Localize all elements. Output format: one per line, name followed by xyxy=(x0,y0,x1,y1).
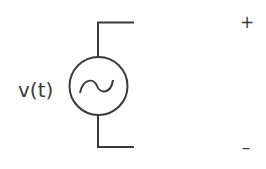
bottom-wire xyxy=(98,115,134,147)
source-label: v(t) xyxy=(18,78,53,102)
positive-terminal-label: + xyxy=(240,12,254,32)
negative-terminal-label: – xyxy=(242,137,251,157)
ac-source-circle xyxy=(70,57,128,115)
top-wire xyxy=(98,23,134,58)
sine-wave-icon xyxy=(80,80,113,93)
circuit-diagram: v(t) + – xyxy=(0,0,266,169)
